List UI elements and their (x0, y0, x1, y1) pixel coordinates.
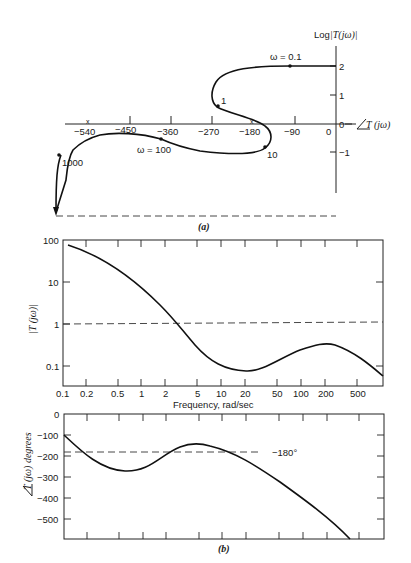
label-w1000: 1000 (62, 157, 83, 168)
nichols-locus (56, 66, 336, 212)
phase-curve (64, 435, 350, 539)
y-tick-label: −500 (37, 514, 58, 525)
y-tick-label: 2 (339, 61, 344, 72)
figure: x x 2 1 0 −1 0 −90 −180 −270 −360 −450 −… (0, 0, 411, 563)
x-tick-labels: 0.1 0.2 0.5 1 2 5 10 20 50 100 200 500 (56, 388, 366, 399)
chart-a-xlabel: T (jω) (366, 119, 391, 131)
y-tick-label: 1 (54, 319, 59, 330)
caption-b: (b) (218, 543, 230, 555)
chart-b-phase: 0 −100 −200 −300 −400 −500 T (jω) degree… (22, 409, 384, 555)
point-w1 (216, 104, 220, 108)
x-tick-label: −180 (239, 126, 260, 137)
chart-a: x x 2 1 0 −1 0 −90 −180 −270 −360 −450 −… (53, 29, 391, 233)
x-tick-label: −270 (198, 126, 219, 137)
chart-a-ylabel-prefix: Log (314, 29, 330, 40)
y-tick-label: −300 (37, 472, 58, 483)
point-w100 (159, 137, 163, 141)
x-tick-label: −540 (74, 126, 95, 137)
svg-text:T (jω) degrees: T (jω) degrees (22, 432, 34, 490)
y-tick-label: −1 (339, 147, 350, 158)
y-tick-label: 0 (54, 409, 59, 420)
y-tick-label: 0 (339, 119, 344, 130)
x-marker: x (86, 118, 90, 125)
svg-text:5: 5 (195, 388, 200, 399)
plot-frame (64, 414, 384, 539)
label-w1: 1 (221, 95, 226, 106)
svg-text:200: 200 (318, 388, 334, 399)
y-tick-label: 1 (339, 90, 344, 101)
y-tick-label: 0.1 (46, 361, 59, 372)
magnitude-curve (68, 245, 383, 376)
unity-gain-line (63, 322, 383, 324)
svg-text:100: 100 (293, 388, 309, 399)
label-w0.1: ω = 0.1 (270, 51, 301, 62)
y-tick-label: 100 (43, 235, 59, 246)
caption-a: (a) (198, 221, 210, 233)
y-tick-label: −200 (37, 451, 58, 462)
svg-text:0.1: 0.1 (56, 388, 69, 399)
svg-text:10: 10 (216, 388, 227, 399)
label-w10: 10 (267, 149, 278, 160)
arrow-icon (53, 207, 59, 216)
point-w1000 (57, 153, 61, 157)
chart-a-ylabel: |T(jω)| (330, 29, 358, 41)
x-tick-label: −90 (284, 126, 300, 137)
y-tick-label: −400 (37, 493, 58, 504)
point-w0.1 (288, 64, 292, 68)
minus-180-label: −180° (272, 447, 297, 458)
x-tick-label: 0 (326, 126, 331, 137)
svg-text:20: 20 (240, 388, 251, 399)
svg-text:50: 50 (272, 388, 283, 399)
chart-c-ylabel: T (jω) degrees (22, 432, 34, 496)
svg-text:0.5: 0.5 (111, 388, 124, 399)
y-tick-label: 10 (48, 277, 59, 288)
svg-text:2: 2 (163, 388, 168, 399)
svg-text:1: 1 (139, 388, 144, 399)
label-w100: ω = 100 (137, 144, 171, 155)
plot-frame (63, 240, 383, 386)
svg-text:500: 500 (350, 388, 366, 399)
chart-b-xlabel: Frequency, rad/sec (173, 399, 254, 410)
y-tick-label: −100 (37, 430, 58, 441)
chart-b-magnitude: 100 10 1 0.1 |T (jω)| 0.1 0.2 0.5 1 2 5 … (27, 235, 383, 410)
chart-b-ylabel: |T (jω)| (27, 304, 39, 334)
x-tick-label: −360 (157, 126, 178, 137)
svg-text:0.2: 0.2 (80, 388, 93, 399)
